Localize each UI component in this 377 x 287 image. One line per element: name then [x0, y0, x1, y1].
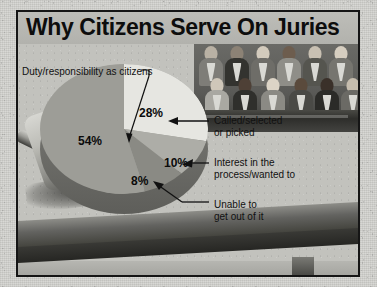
- arrowhead-interest: [182, 159, 193, 168]
- infographic-body: 54% 28% 10% 8% Duty/responsibility as ci…: [18, 44, 358, 275]
- leader-unable-diag: [158, 185, 182, 202]
- leader-duty-line: [129, 76, 149, 138]
- infographic-frame: Why Citizens Serve On Juries: [16, 10, 360, 277]
- callout-leader-lines: [18, 44, 358, 275]
- page-title: Why Citizens Serve On Juries: [26, 14, 339, 41]
- arrowhead-called: [168, 117, 178, 125]
- leader-duty-elbow: [141, 70, 149, 76]
- arrowhead-duty: [126, 133, 133, 143]
- title-band: Why Citizens Serve On Juries: [18, 12, 358, 44]
